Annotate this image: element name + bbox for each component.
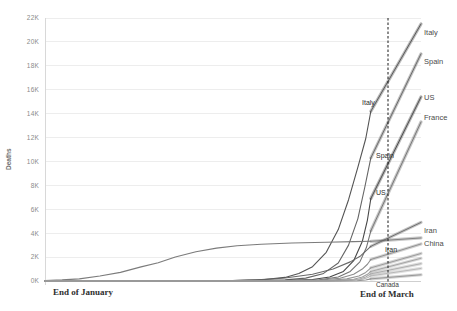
- y-axis-title: Deaths: [5, 148, 12, 170]
- y-tick-label: 16K: [27, 86, 40, 93]
- y-tick-label: 20K: [27, 38, 40, 45]
- series-right-label-china: China: [424, 239, 444, 248]
- y-tick-label: 6K: [31, 206, 40, 213]
- projection-line-iran: [371, 222, 421, 246]
- y-axis-ticks-group: 0K2K4K6K8K10K12K14K16K18K20K22K: [27, 14, 40, 284]
- gridlines-group: [45, 18, 421, 285]
- x-annotation-end-of-march: End of March: [360, 289, 414, 299]
- series-right-label-iran: Iran: [424, 226, 437, 235]
- series-line-italy: [45, 111, 371, 281]
- series-right-label-us: US: [424, 93, 434, 102]
- series-line-spain: [45, 158, 371, 281]
- chart-screenshot: 0K2K4K6K8K10K12K14K16K18K20K22K ItalySpa…: [0, 0, 457, 311]
- y-tick-label: 10K: [27, 158, 40, 165]
- series-line-iran: [45, 246, 371, 281]
- x-annotation-end-of-january: End of January: [53, 287, 114, 297]
- series-right-label-italy: Italy: [424, 28, 438, 37]
- y-tick-label: 14K: [27, 110, 40, 117]
- y-tick-label: 22K: [27, 14, 40, 21]
- series-inline-label-canada: Canada: [376, 281, 399, 288]
- series-inline-label-spain: Spain: [376, 152, 394, 160]
- deaths-line-chart: 0K2K4K6K8K10K12K14K16K18K20K22K ItalySpa…: [0, 0, 457, 311]
- y-tick-label: 0K: [31, 277, 40, 284]
- series-inline-label-italy: Italy: [362, 99, 375, 107]
- series-inline-label-iran: Iran: [385, 246, 397, 253]
- series-right-label-france: France: [424, 113, 447, 122]
- series-inline-label-us: US: [376, 189, 386, 196]
- projection-line-france: [371, 122, 421, 231]
- y-tick-label: 4K: [31, 230, 40, 237]
- projection-line-us: [371, 97, 421, 199]
- series-line-us: [45, 199, 371, 281]
- series-right-label-spain: Spain: [424, 57, 443, 66]
- series-right-labels-group: ItalySpainUSFranceIranChina: [424, 28, 447, 248]
- series-line-china: [45, 241, 371, 280]
- y-tick-label: 12K: [27, 134, 40, 141]
- series-group: [45, 111, 371, 281]
- series-line-france: [45, 231, 371, 281]
- y-tick-label: 2K: [31, 253, 40, 260]
- y-tick-label: 18K: [27, 62, 40, 69]
- y-tick-label: 8K: [31, 182, 40, 189]
